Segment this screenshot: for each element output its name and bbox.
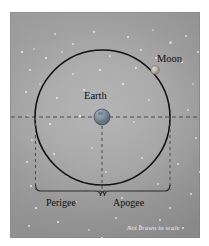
apogee-label: Apogee bbox=[113, 198, 144, 208]
earth-label: Earth bbox=[84, 91, 107, 102]
moon-body bbox=[151, 66, 159, 74]
moon-label: Moon bbox=[157, 54, 182, 65]
figure-root: Moon Earth Perigee Apogee Not drawn to s… bbox=[0, 0, 209, 246]
apogee-brace bbox=[99, 185, 170, 196]
diagram-vector-layer bbox=[0, 0, 209, 246]
perigee-brace bbox=[36, 185, 107, 196]
not-to-scale-note: Not drawn to scale bbox=[127, 225, 180, 232]
perigee-label: Perigee bbox=[46, 198, 76, 208]
